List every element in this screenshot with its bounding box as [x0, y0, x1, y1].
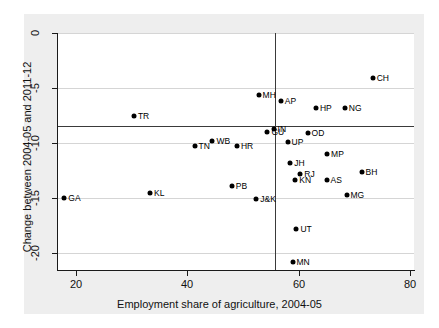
data-point-label-mp: MP [331, 149, 344, 159]
x-tick-60 [299, 271, 300, 276]
data-point-label-ch: CH [377, 73, 389, 83]
data-point-kl [148, 190, 153, 195]
data-point-label-pb: PB [236, 181, 247, 191]
gridline-0 [58, 33, 414, 34]
data-point-label-tr: TR [138, 111, 149, 121]
data-point-label-bh: BH [366, 167, 378, 177]
x-tick-label-80: 80 [390, 278, 430, 290]
gridline-m20 [58, 253, 414, 254]
data-point-mh [256, 92, 261, 97]
data-point-ga [62, 196, 67, 201]
data-point-label-od: OD [312, 128, 325, 138]
data-point-gu [265, 130, 270, 135]
y-tick-m15 [52, 198, 57, 199]
data-point-mg [344, 192, 349, 197]
data-point-ch [370, 76, 375, 81]
data-point-ng [342, 105, 347, 110]
x-tick-20 [76, 271, 77, 276]
data-point-label-mg: MG [351, 190, 365, 200]
x-tick-80 [410, 271, 411, 276]
data-point-label-ng: NG [349, 103, 362, 113]
data-point-tn [192, 144, 197, 149]
data-point-as [324, 178, 329, 183]
data-point-label-ap: AP [285, 96, 296, 106]
y-tick-m20 [52, 253, 57, 254]
data-point-bh [359, 169, 364, 174]
data-point-label-hp: HP [320, 103, 332, 113]
data-point-hr [234, 144, 239, 149]
horizontal-reference-line [58, 126, 414, 127]
x-axis-title: Employment share of agriculture, 2004-05 [0, 298, 439, 310]
data-point-in [271, 126, 276, 131]
data-point-label-jh: JH [294, 158, 304, 168]
data-point-jandk [254, 197, 259, 202]
data-point-ap [278, 99, 283, 104]
x-tick-label-40: 40 [167, 278, 207, 290]
data-point-label-hr: HR [241, 141, 253, 151]
x-tick-label-60: 60 [279, 278, 319, 290]
data-point-label-mn: MN [297, 257, 310, 267]
data-point-label-kl: KL [154, 188, 164, 198]
x-tick-label-20: 20 [56, 278, 96, 290]
gridline-m5 [58, 88, 414, 89]
y-tick-m5 [52, 88, 57, 89]
y-axis-spine [57, 33, 58, 271]
data-point-label-up: UP [292, 137, 304, 147]
data-point-label-ut: UT [300, 224, 311, 234]
x-tick-40 [187, 271, 188, 276]
data-point-label-wb: WB [216, 136, 230, 146]
data-point-label-ga: GA [68, 193, 80, 203]
scatter-plot-figure: 0 -5 -10 -15 -20 20 40 60 80 Employment … [0, 0, 439, 328]
data-point-wb [210, 138, 215, 143]
data-point-kn [293, 178, 298, 183]
vertical-reference-line [275, 33, 276, 271]
data-point-jh [288, 160, 293, 165]
data-point-label-mh: MH [263, 90, 276, 100]
y-tick-0 [52, 33, 57, 34]
data-point-pb [229, 183, 234, 188]
data-point-up [285, 139, 290, 144]
data-point-label-as: AS [331, 175, 342, 185]
x-axis-spine [57, 270, 415, 271]
data-point-mn [290, 259, 295, 264]
data-point-label-tn: TN [199, 141, 210, 151]
data-point-label-jandk: J&K [260, 194, 276, 204]
data-point-label-kn: KN [299, 175, 311, 185]
data-point-tr [131, 113, 136, 118]
data-point-ut [294, 226, 299, 231]
data-point-mp [325, 152, 330, 157]
data-point-od [305, 131, 310, 136]
y-tick-m10 [52, 143, 57, 144]
data-point-hp [313, 105, 318, 110]
data-point-label-in: IN [278, 124, 287, 134]
plot-area [57, 33, 414, 270]
y-axis-title: Change between 2004-05 and 2011-12 [21, 37, 33, 277]
